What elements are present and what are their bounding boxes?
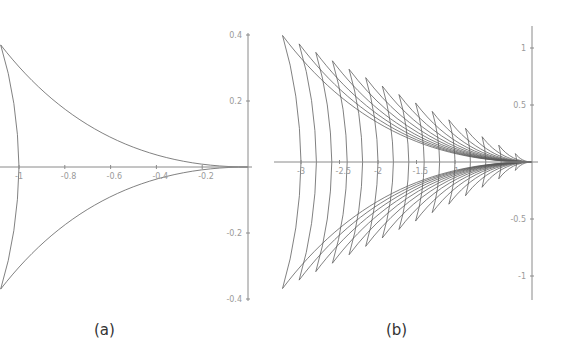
y-tick-label: 0.4 [229, 31, 242, 40]
x-tick-label: -0.2 [198, 172, 214, 181]
x-tick-label: -1 [15, 172, 23, 181]
curve-lower-branch [1, 167, 248, 289]
x-tick-label: -2 [374, 167, 382, 176]
y-tick-label: -1 [518, 272, 526, 281]
y-tick-label: 0.5 [513, 101, 526, 110]
panel-b: -3-2.5-2-1.5-1 10.5-0.5-1 (b) [274, 26, 538, 339]
figure: -1-0.8-0.6-0.4-0.2 0.40.2-0.2-0.4 (a) -3… [0, 0, 563, 354]
y-tick-label: 0.2 [229, 97, 242, 106]
panel-a: -1-0.8-0.6-0.4-0.2 0.40.2-0.2-0.4 (a) [0, 31, 252, 339]
y-tick-label: 1 [521, 44, 526, 53]
x-tick-label: -0.4 [152, 172, 168, 181]
curve-upper-branch [349, 69, 532, 162]
curve-upper-branch [1, 45, 248, 167]
panel-a-caption: (a) [94, 321, 115, 339]
y-tick-label: -0.4 [226, 295, 242, 304]
curve-upper-branch [283, 35, 532, 162]
panel-b-caption: (b) [386, 321, 407, 339]
x-tick-label: -3 [297, 167, 305, 176]
curve-lower-branch [283, 162, 532, 289]
y-tick-label: -0.2 [226, 229, 242, 238]
x-tick-label: -2.5 [336, 167, 352, 176]
x-tick-label: -0.8 [61, 172, 77, 181]
x-tick-label: -1.5 [413, 167, 429, 176]
x-tick-label: -1 [451, 167, 459, 176]
x-tick-label: -0.6 [107, 172, 123, 181]
y-tick-label: -0.5 [510, 215, 526, 224]
